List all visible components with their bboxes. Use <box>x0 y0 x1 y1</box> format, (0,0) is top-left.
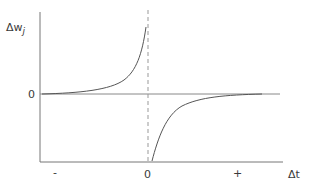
potentiation-curve <box>42 27 146 94</box>
y-axis-label: Δwj <box>6 21 26 36</box>
x-axis-label: Δt <box>288 168 301 181</box>
x-tick-zero: 0 <box>144 168 151 181</box>
x-tick-negative: - <box>53 166 57 179</box>
x-tick-positive: + <box>233 167 242 180</box>
stdp-chart: Δwj 0 - 0 + Δt <box>0 0 312 187</box>
y-tick-zero: 0 <box>28 88 35 101</box>
depression-curve <box>152 94 262 161</box>
